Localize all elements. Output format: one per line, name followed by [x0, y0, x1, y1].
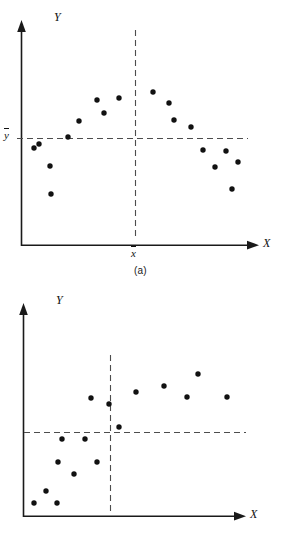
scatter-panel-b: Y X (b): [0, 281, 281, 551]
scatter-panel-a: Y X y x (a): [0, 0, 281, 281]
data-point: [195, 371, 200, 376]
data-point: [116, 424, 121, 429]
panel-a-plot: [0, 0, 281, 281]
data-point: [31, 145, 36, 150]
data-point: [235, 159, 240, 164]
panel-b-y-axis-label: Y: [56, 293, 63, 308]
data-point: [200, 147, 205, 152]
data-point: [101, 110, 106, 115]
data-point: [43, 488, 48, 493]
data-point: [171, 117, 176, 122]
panel-b-y-axis: [19, 303, 28, 517]
data-point: [88, 395, 93, 400]
data-point: [31, 500, 36, 505]
data-point: [229, 186, 234, 191]
panel-a-y-axis-label: Y: [54, 10, 61, 25]
data-point: [224, 394, 229, 399]
panel-b-plot: [0, 281, 281, 551]
panel-b-x-axis-label: X: [250, 507, 257, 522]
data-point: [82, 436, 87, 441]
data-point: [184, 394, 189, 399]
data-point: [76, 118, 81, 123]
data-point: [47, 163, 52, 168]
data-point: [161, 383, 166, 388]
data-point: [65, 134, 70, 139]
data-point: [59, 436, 64, 441]
panel-a-caption: (a): [0, 265, 281, 276]
data-point: [188, 124, 193, 129]
data-point: [55, 459, 60, 464]
panel-a-y-axis: [17, 20, 26, 246]
panel-a-x-axis: [22, 241, 260, 250]
panel-a-y-mean-label: y: [4, 129, 9, 141]
x-mean-glyph: x: [131, 247, 136, 259]
data-point: [116, 95, 121, 100]
data-point: [212, 164, 217, 169]
y-mean-glyph: y: [4, 129, 9, 141]
panel-a-x-mean-label: x: [131, 247, 136, 259]
panel-b-data-points: [31, 371, 229, 505]
data-point: [48, 191, 53, 196]
panel-b-x-axis: [24, 512, 247, 521]
data-point: [94, 459, 99, 464]
data-point: [94, 97, 99, 102]
panel-a-x-axis-label: X: [263, 236, 270, 251]
data-point: [71, 471, 76, 476]
data-point: [133, 389, 138, 394]
data-point: [166, 100, 171, 105]
data-point: [106, 401, 111, 406]
data-point: [223, 148, 228, 153]
data-point: [54, 500, 59, 505]
data-point: [150, 89, 155, 94]
data-point: [36, 141, 41, 146]
